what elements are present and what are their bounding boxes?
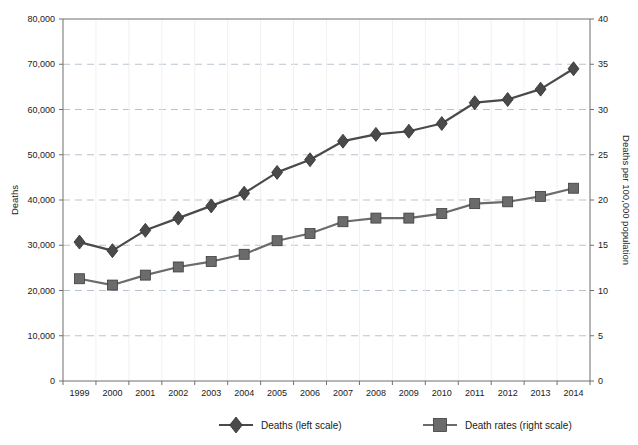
legend-label: Death rates (right scale) — [465, 420, 572, 431]
y-axis-right-tick-label: 35 — [598, 59, 608, 69]
x-axis-tick-label: 1999 — [69, 388, 89, 398]
y-axis-right: 0510152025303540 — [590, 14, 608, 386]
y-axis-right-tick-label: 20 — [598, 195, 608, 205]
data-point-marker — [371, 213, 381, 223]
y-axis-left-title: Deaths — [9, 185, 20, 215]
data-point-marker — [470, 199, 480, 209]
chart-legend: Deaths (left scale)Death rates (right sc… — [219, 417, 572, 433]
data-point-marker — [206, 257, 216, 267]
x-axis-tick-label: 2007 — [333, 388, 353, 398]
y-axis-right-tick-label: 25 — [598, 150, 608, 160]
data-point-marker — [569, 183, 579, 193]
legend-label: Deaths (left scale) — [261, 420, 342, 431]
x-axis-tick-label: 2006 — [300, 388, 320, 398]
y-axis-left-tick-label: 20,000 — [27, 286, 55, 296]
data-point-marker — [404, 213, 414, 223]
data-point-marker — [536, 191, 546, 201]
x-axis-tick-label: 2012 — [498, 388, 518, 398]
x-axis: 1999200020012002200320042005200620072008… — [63, 381, 590, 398]
data-point-marker — [140, 270, 150, 280]
data-point-marker — [272, 236, 282, 246]
dual-axis-line-chart: 010,00020,00030,00040,00050,00060,00070,… — [0, 0, 638, 445]
x-axis-tick-label: 2014 — [564, 388, 584, 398]
chart-container: 010,00020,00030,00040,00050,00060,00070,… — [0, 0, 638, 445]
data-point-marker — [338, 217, 348, 227]
x-axis-tick-label: 2013 — [531, 388, 551, 398]
data-point-marker — [305, 228, 315, 238]
y-axis-left-tick-label: 60,000 — [27, 105, 55, 115]
x-axis-tick-label: 2011 — [465, 388, 484, 398]
legend-square-marker — [434, 419, 447, 432]
y-axis-right-tick-label: 10 — [598, 286, 608, 296]
x-axis-tick-label: 2002 — [168, 388, 188, 398]
data-point-marker — [239, 249, 249, 259]
y-axis-right-tick-label: 40 — [598, 14, 608, 24]
data-point-marker — [74, 274, 84, 284]
data-point-marker — [503, 197, 513, 207]
x-axis-tick-label: 2008 — [366, 388, 386, 398]
y-axis-left-tick-label: 80,000 — [27, 14, 55, 24]
y-axis-left-tick-label: 70,000 — [27, 59, 55, 69]
y-axis-left-tick-label: 10,000 — [27, 331, 55, 341]
legend-item-1[interactable]: Deaths (left scale) — [219, 417, 342, 433]
data-point-marker — [437, 209, 447, 219]
y-axis-right-title: Deaths per 100,000 population — [621, 135, 632, 265]
y-axis-right-tick-label: 15 — [598, 240, 608, 250]
y-axis-left: 010,00020,00030,00040,00050,00060,00070,… — [27, 14, 63, 386]
x-axis-tick-label: 2004 — [234, 388, 254, 398]
x-axis-tick-label: 2000 — [102, 388, 122, 398]
y-axis-left-tick-label: 0 — [50, 376, 55, 386]
x-axis-tick-label: 2005 — [267, 388, 287, 398]
legend-diamond-marker — [230, 417, 242, 433]
x-axis-tick-label: 2010 — [432, 388, 452, 398]
y-axis-left-tick-label: 40,000 — [27, 195, 55, 205]
y-axis-right-tick-label: 0 — [598, 376, 603, 386]
x-axis-tick-label: 2009 — [399, 388, 419, 398]
y-axis-right-tick-label: 5 — [598, 331, 603, 341]
data-point-marker — [107, 280, 117, 290]
y-axis-left-tick-label: 50,000 — [27, 150, 55, 160]
x-axis-tick-label: 2001 — [135, 388, 155, 398]
y-axis-right-tick-label: 30 — [598, 105, 608, 115]
legend-item-2[interactable]: Death rates (right scale) — [423, 419, 572, 432]
x-axis-tick-label: 2003 — [201, 388, 221, 398]
data-point-marker — [173, 262, 183, 272]
y-axis-left-tick-label: 30,000 — [27, 240, 55, 250]
